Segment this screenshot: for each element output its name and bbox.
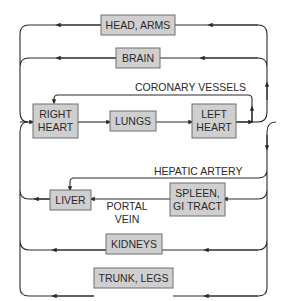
node-right-heart: RIGHT HEART	[33, 104, 78, 138]
node-liver: LIVER	[50, 190, 91, 210]
hepatic-artery-label: HEPATIC ARTERY	[154, 165, 243, 177]
kidneys-label: KIDNEYS	[111, 238, 157, 250]
node-left-heart: LEFT HEART	[192, 104, 236, 138]
node-head-arms: HEAD, ARMS	[101, 15, 175, 35]
brain-label: BRAIN	[122, 52, 154, 64]
node-kidneys: KIDNEYS	[106, 234, 162, 254]
right-heart-label-2: HEART	[38, 121, 74, 133]
coronary-vessels-label: CORONARY VESSELS	[135, 81, 246, 93]
node-lungs: LUNGS	[110, 111, 156, 131]
lungs-label: LUNGS	[115, 115, 151, 127]
trunk-legs-label: TRUNK, LEGS	[98, 272, 168, 284]
portal-vein-label-2: VEIN	[115, 213, 140, 225]
spleen-label-1: SPLEEN,	[175, 187, 219, 199]
spleen-label-2: GI TRACT	[173, 200, 222, 212]
node-trunk-legs: TRUNK, LEGS	[94, 268, 173, 288]
left-heart-label-2: HEART	[196, 121, 232, 133]
circulation-diagram: HEAD, ARMS BRAIN RIGHT HEART LUNGS LEFT …	[0, 0, 286, 301]
venous-return-line	[20, 25, 29, 296]
portal-vein-label-1: PORTAL	[106, 200, 147, 212]
head-arms-label: HEAD, ARMS	[106, 19, 171, 31]
liver-label: LIVER	[55, 194, 86, 206]
right-heart-label-1: RIGHT	[39, 108, 72, 120]
left-heart-label-1: LEFT	[201, 108, 227, 120]
arterial-supply-line	[258, 25, 276, 296]
node-brain: BRAIN	[116, 48, 160, 68]
node-spleen-gi-tract: SPLEEN, GI TRACT	[170, 183, 225, 216]
